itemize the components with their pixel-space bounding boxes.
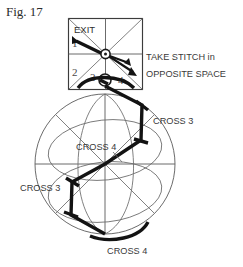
cross-4-bottom-label: CROSS 4 [107, 246, 147, 256]
cross-3-lower-left-label: CROSS 3 [20, 183, 60, 193]
figure-caption: Fig. 17 [6, 4, 43, 19]
thread-zigzag-main [71, 86, 142, 234]
stitch-diagram-svg: Fig. 17 [0, 0, 243, 267]
thread-tick-lower-left [64, 212, 78, 217]
figure-17-container: Fig. 17 [0, 0, 243, 267]
number-2-label: 2 [72, 66, 78, 78]
square-thread-group [72, 36, 137, 76]
main-thread-path [64, 86, 148, 240]
take-stitch-line2-label: OPPOSITE SPACE [146, 69, 226, 79]
cross-4-center-label: CROSS 4 [76, 142, 116, 152]
arrowhead-upper [124, 58, 131, 66]
cross-3-upper-right-label: CROSS 3 [153, 116, 193, 126]
exit-label: EXIT [74, 24, 95, 35]
take-stitch-line1-label: TAKE STITCH in [146, 52, 215, 62]
needle-eye-dot [104, 53, 107, 56]
